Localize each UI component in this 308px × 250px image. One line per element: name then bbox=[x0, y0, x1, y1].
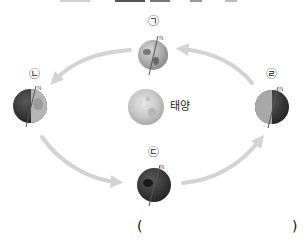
earth-digeut: N bbox=[137, 163, 171, 206]
svg-text:N: N bbox=[160, 163, 165, 170]
marker-giyeok: ㉠ bbox=[148, 16, 159, 27]
svg-text:N: N bbox=[279, 85, 284, 92]
arrow-giyeok-to-nieun bbox=[55, 50, 130, 80]
marker-rieul: ㉣ bbox=[266, 69, 277, 80]
arrow-rieul-to-giyeok bbox=[182, 49, 252, 83]
svg-text:N: N bbox=[159, 34, 164, 41]
marker-digeut: ㉢ bbox=[148, 147, 159, 158]
earth-rieul: N bbox=[254, 85, 289, 128]
answer-blank[interactable] bbox=[150, 216, 285, 236]
earth-nieun: N bbox=[13, 84, 49, 127]
arrow-nieun-to-digeut bbox=[42, 137, 117, 182]
earth-giyeok: N bbox=[138, 34, 171, 75]
answer-close-paren: ) bbox=[292, 219, 297, 233]
marker-nieun: ㉡ bbox=[29, 69, 40, 80]
sun-label: 태양 bbox=[170, 101, 190, 112]
answer-open-paren: ( bbox=[137, 219, 142, 233]
sun bbox=[128, 89, 164, 125]
svg-text:N: N bbox=[37, 84, 42, 91]
arrow-digeut-to-rieul bbox=[183, 140, 260, 183]
earth-orbit-diagram: N N N N bbox=[0, 0, 308, 250]
